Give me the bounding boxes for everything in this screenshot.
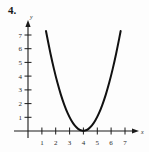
y-axis-label: y — [29, 14, 33, 20]
y-tick-labels: 1 2 3 4 5 6 7 — [19, 32, 23, 122]
y-tick-label: 7 — [19, 32, 23, 40]
y-tick-label: 1 — [19, 114, 23, 122]
x-axis-label: x — [140, 129, 144, 135]
x-tick-labels: 1 2 3 4 5 6 7 — [40, 139, 127, 147]
x-tick-label: 5 — [96, 139, 100, 147]
y-tick-label: 6 — [19, 45, 23, 53]
x-tick-label: 1 — [40, 139, 44, 147]
x-tick-label: 3 — [68, 139, 72, 147]
y-tick-label: 4 — [19, 73, 23, 81]
y-tick-label: 5 — [19, 59, 23, 67]
parabola-curve — [46, 31, 121, 131]
figure-container: 4. y x 1 2 3 4 5 6 7 — [0, 0, 149, 152]
x-axis-arrow-icon — [132, 128, 139, 133]
x-tick-label: 2 — [54, 139, 58, 147]
y-tick-label: 2 — [19, 100, 23, 108]
y-tick-label: 3 — [19, 86, 23, 94]
x-tick-label: 4 — [82, 139, 86, 147]
x-tick-label: 7 — [123, 139, 127, 147]
x-tick-label: 6 — [109, 139, 113, 147]
parabola-plot: y x 1 2 3 4 5 6 7 — [0, 0, 149, 152]
y-axis-arrow-icon — [25, 20, 30, 27]
